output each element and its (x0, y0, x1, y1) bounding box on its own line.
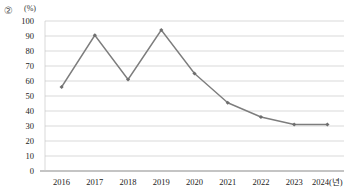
gridlines (45, 21, 344, 156)
x-axis-tick-label: 2021 (219, 178, 236, 187)
y-axis-tick-label: 50 (8, 92, 34, 101)
x-axis-tick-label: 2022 (252, 178, 269, 187)
y-axis-tick-label: 60 (8, 77, 34, 86)
x-axis-tick-label: 2017 (86, 178, 103, 187)
line-chart: 0102030405060708090100 20162017201820192… (0, 0, 352, 189)
data-point-marker (259, 115, 263, 119)
y-axis-tick-label: 70 (8, 62, 34, 71)
y-axis-tick-label: 80 (8, 47, 34, 56)
y-axis-tick-label: 20 (8, 137, 34, 146)
data-series-layer (60, 28, 330, 127)
series-line (62, 30, 328, 125)
x-axis-tick-label: 2023 (286, 178, 303, 187)
chart-page: ② (%) 0102030405060708090100 20162017201… (0, 0, 352, 189)
y-axis-tick-label: 0 (8, 167, 34, 176)
y-axis-tick-label: 30 (8, 122, 34, 131)
y-axis-tick-label: 100 (8, 17, 34, 26)
x-axis-tick-label: 2016 (53, 178, 70, 187)
chart-canvas (0, 0, 352, 189)
x-axis-tick-label: 2018 (120, 178, 137, 187)
y-axis-tick-label: 40 (8, 107, 34, 116)
y-axis-tick-label: 10 (8, 152, 34, 161)
y-axis-tick-label: 90 (8, 32, 34, 41)
x-axis-tick-label: 2019 (153, 178, 170, 187)
x-axis-tick-label: 2024(년) (312, 178, 343, 187)
x-axis-tick-label: 2020 (186, 178, 203, 187)
